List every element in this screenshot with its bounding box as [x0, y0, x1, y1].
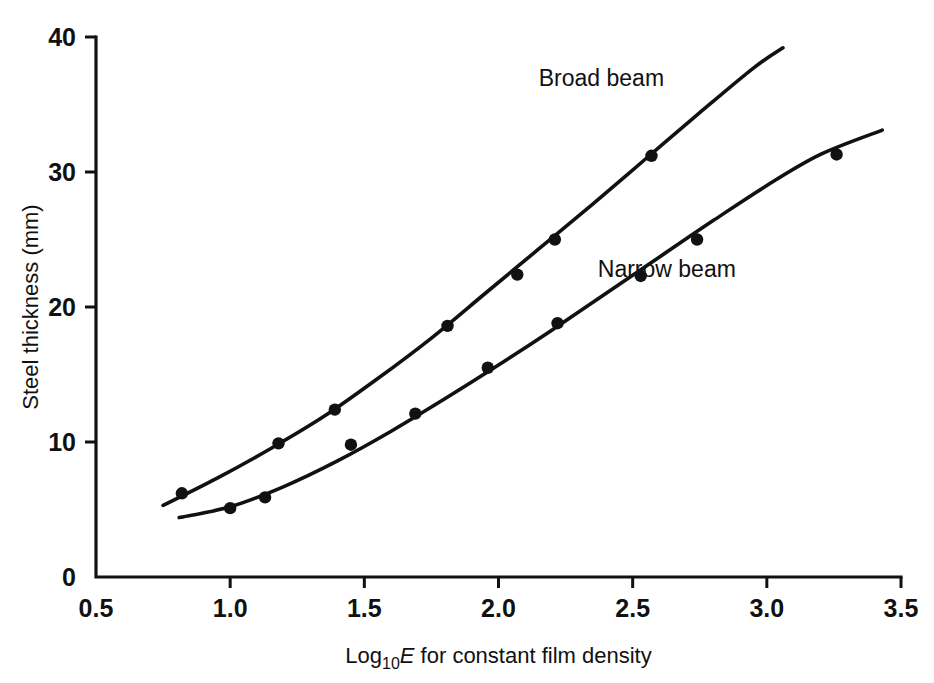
- x-axis-tick-label: 3.0: [749, 594, 784, 622]
- data-point: [441, 320, 453, 332]
- y-axis-tick-label: 10: [48, 428, 76, 456]
- data-point: [549, 233, 561, 245]
- y-axis-tick-label: 30: [48, 158, 76, 186]
- data-point: [830, 148, 842, 160]
- series-curve: [179, 130, 882, 517]
- x-axis-title: Log10E for constant film density: [345, 643, 651, 672]
- series-label: Broad beam: [539, 65, 664, 91]
- chart-figure: 0102030400.51.01.52.02.53.03.5Broad beam…: [0, 0, 934, 683]
- x-axis-tick-label: 0.5: [79, 594, 114, 622]
- series-narrow-beam: Narrow beam: [179, 130, 882, 517]
- x-axis-tick-label: 1.0: [213, 594, 248, 622]
- data-point: [551, 317, 563, 329]
- y-axis-title: Steel thickness (mm): [18, 204, 43, 409]
- x-axis-tick-label: 2.5: [615, 594, 650, 622]
- y-axis-tick-label: 40: [48, 23, 76, 51]
- data-point: [176, 487, 188, 499]
- data-point: [482, 362, 494, 374]
- y-axis-tick-label: 20: [48, 293, 76, 321]
- x-axis-tick-label: 3.5: [884, 594, 919, 622]
- data-point: [645, 150, 657, 162]
- data-point: [224, 502, 236, 514]
- data-point: [272, 437, 284, 449]
- x-axis-tick-label: 2.0: [481, 594, 516, 622]
- x-axis-tick-label: 1.5: [347, 594, 382, 622]
- data-point: [329, 403, 341, 415]
- data-point: [409, 407, 421, 419]
- y-axis-tick-label: 0: [62, 563, 76, 591]
- data-point: [259, 491, 271, 503]
- data-point: [691, 233, 703, 245]
- data-point: [345, 439, 357, 451]
- series-label: Narrow beam: [598, 256, 736, 282]
- axis-lines: [96, 37, 901, 577]
- data-point: [511, 268, 523, 280]
